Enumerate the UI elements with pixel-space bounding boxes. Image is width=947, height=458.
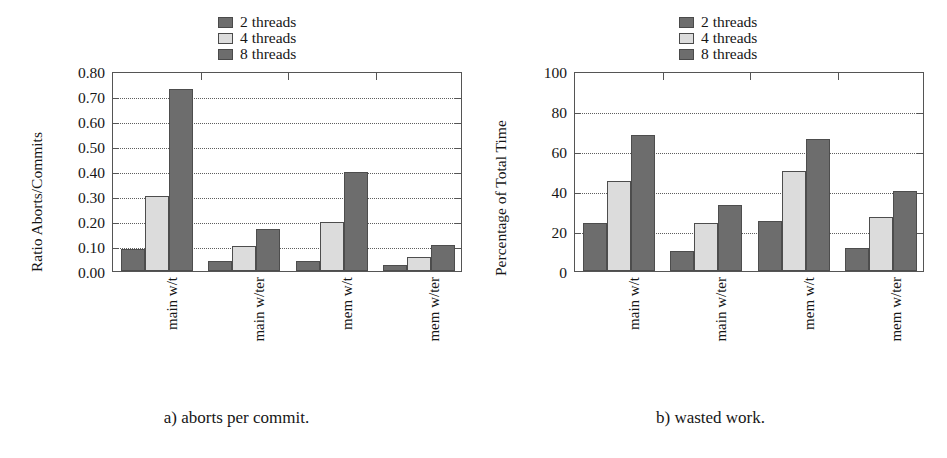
legend-label: 4 threads [701, 30, 757, 46]
legend-swatch-icon [218, 49, 233, 60]
bar [232, 246, 256, 271]
bar [121, 249, 145, 272]
x-tick-label: mem w/t [339, 277, 356, 330]
bar [169, 89, 193, 272]
legend-label: 4 threads [240, 30, 296, 46]
legend-item: 2 threads [679, 14, 757, 30]
y-tick-label: 0.10 [78, 239, 105, 257]
chart-panel-a: 2 threads 4 threads 8 threads Ratio Abor… [0, 0, 473, 458]
x-tick-label: main w/t [164, 277, 181, 330]
y-tick-label: 100 [544, 64, 567, 82]
legend-swatch-icon [679, 49, 694, 60]
panel-caption: a) aborts per commit. [0, 408, 473, 428]
bar [869, 217, 893, 271]
bar-series-group [113, 73, 461, 271]
legend-swatch-icon [218, 33, 233, 44]
y-tick-label: 80 [552, 104, 568, 122]
bar [694, 223, 718, 271]
y-axis-title: Percentage of Total Time [492, 120, 510, 276]
bar [758, 221, 782, 271]
x-tick-label: main w/ter [713, 277, 730, 342]
bar [782, 171, 806, 271]
bar [145, 196, 169, 271]
legend-item: 2 threads [218, 14, 296, 30]
x-tick-label: mem w/ter [426, 277, 443, 342]
bar [407, 257, 431, 271]
legend-item: 8 threads [679, 46, 757, 62]
legend-label: 8 threads [240, 46, 296, 62]
x-tick-label: main w/t [626, 277, 643, 330]
bar-series-group [575, 73, 923, 271]
y-tick-label: 0.40 [78, 164, 105, 182]
bar [431, 245, 455, 271]
x-tick-label: mem w/t [801, 277, 818, 330]
x-tick-label: main w/ter [251, 277, 268, 342]
legend-panel-b: 2 threads 4 threads 8 threads [679, 14, 757, 62]
bar [296, 261, 320, 271]
panel-caption: b) wasted work. [474, 408, 947, 428]
y-tick-label: 40 [552, 184, 568, 202]
y-tick-label: 0.50 [78, 139, 105, 157]
y-tick-label: 0 [559, 264, 567, 282]
y-tick-label: 0.20 [78, 214, 105, 232]
bar [607, 181, 631, 271]
chart-panel-b: 2 threads 4 threads 8 threads Percentage… [474, 0, 947, 458]
x-tick-label: mem w/ter [888, 277, 905, 342]
bar [670, 251, 694, 271]
plot-area-a: 0.000.100.200.300.400.500.600.700.80 mai… [112, 72, 462, 272]
x-axis-labels: main w/tmain w/termem w/tmem w/ter [575, 271, 923, 391]
bar [845, 248, 869, 271]
legend-swatch-icon [218, 17, 233, 28]
legend-item: 4 threads [679, 30, 757, 46]
bar [320, 222, 344, 271]
legend-swatch-icon [679, 33, 694, 44]
legend-label: 2 threads [240, 14, 296, 30]
y-tick-label: 20 [552, 224, 568, 242]
y-axis-title: Ratio Aborts/Commits [28, 132, 46, 272]
y-tick-label: 60 [552, 144, 568, 162]
legend-label: 8 threads [701, 46, 757, 62]
bar [256, 229, 280, 272]
bar [631, 135, 655, 271]
bar [583, 223, 607, 271]
legend-item: 4 threads [218, 30, 296, 46]
bar [208, 261, 232, 271]
y-tick-label: 0.30 [78, 189, 105, 207]
plot-area-b: 020406080100 main w/tmain w/termem w/tme… [574, 72, 924, 272]
y-tick-label: 0.70 [78, 89, 105, 107]
legend-panel-a: 2 threads 4 threads 8 threads [218, 14, 296, 62]
bar [344, 172, 368, 271]
bar [806, 139, 830, 271]
legend-item: 8 threads [218, 46, 296, 62]
legend-swatch-icon [679, 17, 694, 28]
y-tick-label: 0.60 [78, 114, 105, 132]
bar [893, 191, 917, 271]
bar [718, 205, 742, 271]
y-tick-label: 0.80 [78, 64, 105, 82]
figure-two-bar-charts: 2 threads 4 threads 8 threads Ratio Abor… [0, 0, 947, 458]
legend-label: 2 threads [701, 14, 757, 30]
x-axis-labels: main w/tmain w/termem w/tmem w/ter [113, 271, 461, 391]
y-tick-label: 0.00 [78, 264, 105, 282]
